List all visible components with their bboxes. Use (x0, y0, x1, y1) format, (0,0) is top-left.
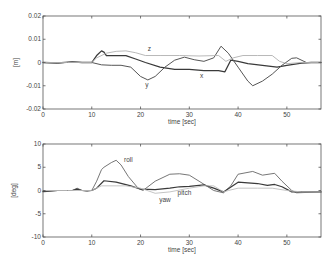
x-tick-label: 30 (186, 111, 194, 118)
x-axis-label: time [sec] (168, 246, 196, 254)
x-tick-label: 20 (137, 111, 145, 118)
y-tick-label: 5 (37, 163, 41, 170)
y-tick-label: 0.02 (28, 12, 41, 19)
x-tick-label: 50 (283, 111, 291, 118)
series-label-pitch: pitch (178, 189, 192, 197)
series-line-y (43, 46, 321, 86)
x-tick-label: 0 (41, 111, 45, 118)
series-line-z (43, 51, 321, 64)
y-tick-label: -10 (32, 233, 42, 240)
figure: 01020304050-0.02-0.0100.010.02time [sec]… (0, 0, 336, 266)
y-tick-label: -0.02 (26, 105, 41, 112)
x-tick-label: 40 (234, 111, 242, 118)
y-tick-label: 10 (34, 140, 42, 147)
series-label-roll: roll (124, 156, 133, 163)
x-tick-label: 50 (283, 239, 291, 246)
orientation-plot: 01020304050-10-50510time [sec][deg]rollp… (10, 140, 321, 254)
y-axis-label: [deg] (10, 183, 18, 198)
x-tick-label: 10 (88, 239, 96, 246)
series-label-z: z (148, 45, 151, 52)
x-tick-label: 10 (88, 111, 96, 118)
x-axis-label: time [sec] (168, 118, 196, 126)
series-label-yaw: yaw (159, 196, 171, 204)
y-axis-label: [m] (12, 58, 20, 67)
series-label-y: y (145, 81, 149, 89)
y-tick-label: 0 (37, 187, 41, 194)
x-tick-label: 20 (137, 239, 145, 246)
x-tick-label: 30 (186, 239, 194, 246)
y-tick-label: 0 (37, 59, 41, 66)
y-tick-label: 0.01 (28, 35, 41, 42)
series-line-roll (43, 160, 321, 193)
x-tick-label: 40 (234, 239, 242, 246)
y-tick-label: -5 (35, 210, 41, 217)
y-tick-label: -0.01 (26, 82, 41, 89)
x-tick-label: 0 (41, 239, 45, 246)
position-plot: 01020304050-0.02-0.0100.010.02time [sec]… (12, 12, 321, 126)
series-label-x: x (200, 72, 204, 79)
